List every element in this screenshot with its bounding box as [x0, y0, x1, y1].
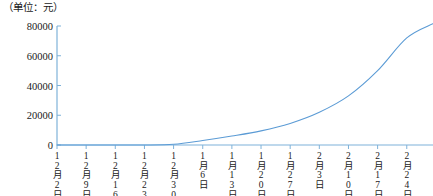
y-tick-label: 20000 [0, 110, 53, 121]
y-axis-group [57, 26, 61, 145]
x-tick-label: 1月6日 [198, 151, 208, 190]
y-tick-label: 40000 [0, 80, 53, 91]
data-series-line [57, 24, 433, 145]
x-tick-label: 1月27日 [285, 151, 295, 196]
x-axis-group [57, 145, 433, 149]
y-tick-label: 0 [0, 140, 53, 151]
x-tick-label: 2月3日 [314, 151, 324, 190]
x-tick-label: 12月30日 [169, 151, 179, 196]
y-tick-label: 80000 [0, 21, 53, 32]
x-axis-ticks [57, 145, 407, 149]
x-tick-label: 12月2日 [52, 151, 62, 196]
x-tick-label: 1月13日 [227, 151, 237, 196]
x-tick-label: 2月10日 [343, 151, 353, 196]
chart-plot-area [0, 0, 433, 196]
x-tick-label: 2月17日 [373, 151, 383, 196]
x-tick-label: 12月9日 [81, 151, 91, 196]
x-tick-label: 2月24日 [402, 151, 412, 196]
x-tick-label: 12月23日 [139, 151, 149, 196]
y-tick-label: 60000 [0, 50, 53, 61]
x-tick-label: 12月16日 [110, 151, 120, 196]
line-chart-figure: （单位：元） 020000400006000080000 12月2日12月9日1… [0, 0, 433, 196]
x-tick-label: 1月20日 [256, 151, 266, 196]
